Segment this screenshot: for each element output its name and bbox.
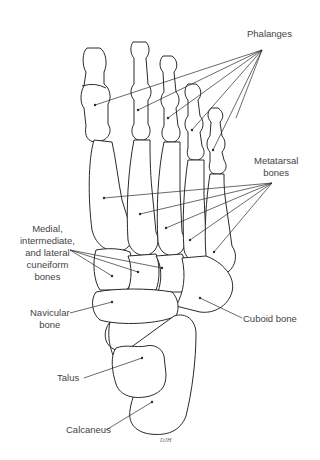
label-calcaneus: Calcaneus <box>66 424 111 436</box>
label-metatarsal-bones: Metatarsal bones <box>254 155 298 179</box>
label-cuneiform-line1: Medial, <box>20 223 75 235</box>
second-toe-bones <box>127 42 158 255</box>
label-navicular-bone: Navicular bone <box>30 307 70 331</box>
label-cuneiform-bones: Medial, intermediate, and lateral cuneif… <box>20 223 75 283</box>
label-metatarsal-line1: Metatarsal <box>254 155 298 167</box>
fifth-toe-bones <box>205 108 235 274</box>
label-navicular-line2: bone <box>30 319 70 331</box>
label-cuboid-bone: Cuboid bone <box>243 313 297 325</box>
artist-signature: DJH <box>160 437 171 443</box>
label-talus: Talus <box>57 372 79 384</box>
label-cuneiform-line5: bones <box>20 271 75 283</box>
label-metatarsal-line2: bones <box>254 167 298 179</box>
navicular-bone <box>93 289 179 323</box>
big-toe-bones <box>81 48 132 251</box>
label-cuneiform-line3: and lateral <box>20 247 75 259</box>
label-navicular-line1: Navicular <box>30 307 70 319</box>
label-phalanges: Phalanges <box>247 28 292 40</box>
talus-bone <box>112 345 166 397</box>
cuneiform-bones <box>94 249 187 292</box>
label-cuneiform-line2: intermediate, <box>20 235 75 247</box>
label-cuneiform-line4: cuneiform <box>20 259 75 271</box>
